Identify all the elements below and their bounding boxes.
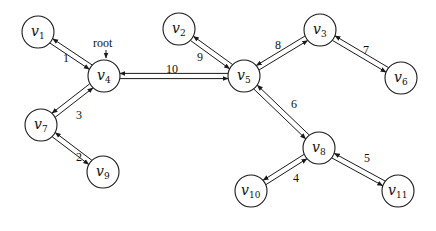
edge-weight-label: 8 bbox=[275, 38, 281, 52]
edge-weight-label: 4 bbox=[293, 171, 299, 185]
edge-arrow-forward bbox=[52, 84, 90, 113]
edge-weight-label: 3 bbox=[76, 108, 82, 122]
edge-arrow-backward bbox=[55, 88, 93, 117]
edge-arrow-backward bbox=[334, 153, 385, 181]
edge-v4-v7 bbox=[52, 84, 93, 117]
node-v6: v6 bbox=[385, 62, 417, 94]
edge-v5-v8 bbox=[254, 85, 310, 139]
edge-weight-label: 2 bbox=[76, 150, 82, 164]
root-label: root bbox=[93, 36, 113, 50]
node-v1: v1 bbox=[22, 16, 54, 48]
edge-arrow-forward bbox=[259, 41, 308, 70]
node-v3: v3 bbox=[304, 14, 336, 46]
edge-v8-v11 bbox=[332, 153, 385, 185]
edge-weight-label: 7 bbox=[363, 43, 369, 57]
node-v10: v10 bbox=[235, 175, 267, 207]
edge-weight-label: 6 bbox=[291, 97, 297, 111]
edge-v3-v6 bbox=[332, 36, 388, 72]
edge-arrow-forward bbox=[254, 89, 306, 139]
edge-arrow-forward bbox=[52, 137, 88, 165]
node-v2: v2 bbox=[163, 13, 195, 45]
edge-arrow-forward bbox=[53, 39, 92, 65]
node-v7: v7 bbox=[25, 109, 57, 141]
edge-v4-v1 bbox=[50, 39, 92, 70]
edge-arrow-backward bbox=[335, 36, 388, 68]
edge-v7-v9 bbox=[52, 133, 92, 165]
node-v8: v8 bbox=[303, 132, 335, 164]
root-indicator: root bbox=[93, 36, 113, 58]
edge-arrow-backward bbox=[50, 43, 89, 69]
edge-v8-v10 bbox=[263, 154, 307, 184]
edge-weight-label: 10 bbox=[166, 62, 178, 76]
node-v9: v9 bbox=[87, 156, 119, 188]
edge-arrow-backward bbox=[55, 133, 91, 161]
node-v4: v4 bbox=[88, 60, 120, 92]
edge-arrow-backward bbox=[266, 159, 307, 185]
edge-arrow-forward bbox=[332, 158, 383, 186]
tree-diagram: 12345678910 v1v2v3v4v5v6v7v8v9v10v11 roo… bbox=[0, 0, 436, 231]
node-v11: v11 bbox=[382, 175, 414, 207]
edge-weight-label: 9 bbox=[197, 50, 203, 64]
edge-arrow-forward bbox=[332, 40, 385, 72]
edge-arrow-backward bbox=[257, 85, 309, 135]
node-v5: v5 bbox=[228, 60, 260, 92]
edge-weight-label: 1 bbox=[63, 51, 69, 65]
edge-weight-label: 5 bbox=[364, 151, 370, 165]
edge-v5-v3 bbox=[256, 36, 307, 70]
